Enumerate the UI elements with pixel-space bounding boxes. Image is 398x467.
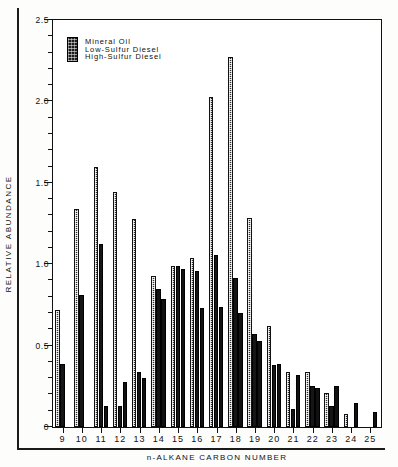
x-axis-tick-label: 25 (364, 434, 376, 444)
x-axis-tick (178, 427, 179, 433)
x-axis-tick (236, 427, 237, 433)
bar (373, 412, 377, 427)
bar (257, 341, 261, 427)
x-axis-tick (293, 427, 294, 433)
y-axis-minor-tick (48, 247, 53, 248)
x-axis-tick (82, 427, 83, 433)
chart-legend: Mineral Oil Low-Sulfur Diesel High-Sulfu… (67, 37, 162, 62)
bar (209, 97, 213, 427)
bar (94, 167, 98, 427)
y-axis-minor-tick (48, 166, 53, 167)
x-axis-tick-label: 19 (249, 434, 261, 444)
bar (219, 307, 223, 427)
bar (113, 192, 117, 427)
y-axis-minor-tick (48, 35, 53, 36)
bar (137, 372, 141, 427)
x-axis-tick-label: 20 (268, 434, 280, 444)
bar (247, 218, 251, 427)
bar (190, 258, 194, 427)
bar (291, 409, 295, 427)
bar (296, 375, 300, 427)
legend-entry-high-sulfur-diesel: High-Sulfur Diesel (85, 53, 162, 61)
bar (176, 266, 180, 427)
x-axis-tick-label: 16 (191, 434, 203, 444)
x-axis-tick-label: 12 (114, 434, 126, 444)
y-axis-tick-label: 2.0 (35, 96, 49, 106)
x-axis-tick-label: 18 (230, 434, 242, 444)
x-axis-tick-label: 13 (134, 434, 146, 444)
bar (233, 278, 237, 427)
y-axis-minor-tick (48, 377, 53, 378)
bar (305, 372, 309, 427)
bar (181, 269, 185, 427)
bar (60, 364, 64, 427)
x-axis-tick (313, 427, 314, 433)
bar (156, 289, 160, 427)
bar (55, 310, 59, 427)
x-axis-tick (370, 427, 371, 433)
x-axis-tick (351, 427, 352, 433)
bar (214, 255, 218, 427)
x-axis-tick-label: 17 (210, 434, 222, 444)
bar (334, 386, 338, 427)
x-axis-tick-label: 10 (76, 434, 88, 444)
y-axis-minor-tick (48, 393, 53, 394)
bar (315, 388, 319, 427)
bar (344, 414, 348, 427)
bar (171, 266, 175, 427)
x-axis-tick (101, 427, 102, 433)
bar (123, 382, 127, 427)
x-axis-tick (197, 427, 198, 433)
y-axis-minor-tick (48, 279, 53, 280)
y-axis-title: RELATIVE ABUNDANCE (4, 175, 13, 292)
y-axis-minor-tick (48, 52, 53, 53)
y-axis-minor-tick (48, 149, 53, 150)
x-axis-tick-label: 24 (345, 434, 357, 444)
plot-area: 00.51.01.52.02.5 91011121314151617181920… (52, 19, 382, 428)
y-axis-minor-tick (48, 296, 53, 297)
y-axis-minor-tick (48, 117, 53, 118)
chart-page: RELATIVE ABUNDANCE 00.51.01.52.02.5 9101… (0, 0, 398, 467)
bar (272, 365, 276, 427)
bar (99, 244, 103, 428)
y-axis-tick-label: 2.5 (35, 15, 49, 25)
y-axis-tick-label: 1.0 (35, 259, 49, 269)
bar (132, 219, 136, 427)
bar (161, 299, 165, 427)
x-axis-tick-label: 11 (95, 434, 106, 444)
x-axis-tick (217, 427, 218, 433)
x-axis-tick (120, 427, 121, 433)
x-axis-tick-label: 15 (172, 434, 184, 444)
bar (200, 308, 204, 427)
bar (252, 334, 256, 427)
bar (310, 386, 314, 427)
bar (79, 295, 83, 427)
x-axis-tick-label: 14 (153, 434, 165, 444)
y-axis-minor-tick (48, 410, 53, 411)
y-axis-minor-tick (48, 231, 53, 232)
y-axis-minor-tick (48, 84, 53, 85)
y-axis-tick-label: 0 (44, 422, 49, 432)
y-axis-tick-label: 1.5 (35, 178, 49, 188)
x-axis-tick-label: 21 (287, 434, 299, 444)
x-axis-tick (63, 427, 64, 433)
bar (238, 313, 242, 427)
y-axis-minor-tick (48, 328, 53, 329)
bar (286, 372, 290, 427)
x-axis-tick (140, 427, 141, 433)
y-axis-minor-tick (48, 68, 53, 69)
y-axis-minor-tick (48, 214, 53, 215)
bar (324, 393, 328, 427)
legend-swatch (67, 37, 78, 62)
bar (104, 406, 108, 427)
y-axis-minor-tick (48, 361, 53, 362)
bar (195, 271, 199, 427)
legend-labels: Mineral Oil Low-Sulfur Diesel High-Sulfu… (85, 37, 162, 62)
bar (354, 403, 358, 427)
bar (151, 276, 155, 427)
y-axis-minor-tick (48, 312, 53, 313)
bar (74, 209, 78, 427)
x-axis-tick-label: 23 (326, 434, 338, 444)
bar (277, 364, 281, 427)
x-axis-tick (332, 427, 333, 433)
